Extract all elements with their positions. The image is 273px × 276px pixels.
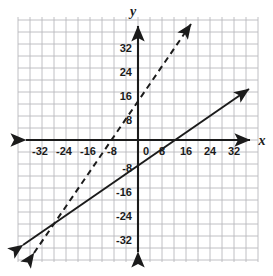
y-tick-label-8: 8 [126, 114, 132, 126]
x-tick-label-32: 32 [228, 145, 240, 157]
origin-label: 0 [143, 145, 149, 157]
x-tick-label--16: -16 [80, 145, 96, 157]
y-tick-label-32: 32 [120, 42, 132, 54]
x-tick-label-8: 8 [159, 145, 165, 157]
x-tick-label--8: -8 [107, 145, 117, 157]
y-tick-label-16: 16 [120, 90, 132, 102]
y-tick-label--8: -8 [122, 162, 132, 174]
x-tick-label--24: -24 [56, 145, 73, 157]
y-tick-label--16: -16 [116, 186, 132, 198]
x-tick-label-16: 16 [180, 145, 192, 157]
y-axis-label: y [128, 4, 137, 19]
x-axis-label: x [258, 133, 266, 148]
coordinate-graph-figure: -32 -24 -16 -8 8 16 24 32 0 32 24 16 8 -… [0, 0, 273, 276]
figure-background [0, 0, 273, 276]
x-tick-label--32: -32 [32, 145, 48, 157]
y-tick-label--24: -24 [116, 210, 133, 222]
coordinate-plane-svg: -32 -24 -16 -8 8 16 24 32 0 32 24 16 8 -… [0, 0, 273, 276]
y-tick-label--32: -32 [116, 234, 132, 246]
x-tick-label-24: 24 [204, 145, 217, 157]
y-tick-label-24: 24 [120, 66, 133, 78]
